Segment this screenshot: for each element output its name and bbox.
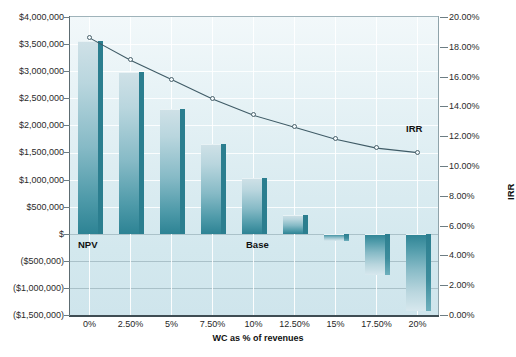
y-tick-label-left: $500,000 <box>0 202 64 212</box>
irr-point-17-50pct <box>374 145 379 150</box>
x-tick-label-10pct: 10% <box>244 319 262 329</box>
y-tick-mark-left <box>64 125 70 126</box>
annotation-base: Base <box>246 239 269 250</box>
y-tick-label-right: 4.00% <box>449 250 509 260</box>
y-tick-mark-right <box>440 136 448 137</box>
irr-point-5pct <box>169 77 174 82</box>
irr-point-10pct <box>251 112 256 117</box>
y-tick-mark-right <box>440 17 448 18</box>
y-tick-label-right: 12.00% <box>449 131 509 141</box>
annotation-npv: NPV <box>78 239 98 250</box>
y-tick-label-left: ($500,000) <box>0 256 64 266</box>
x-tick-label-17-50pct: 17.50% <box>361 319 392 329</box>
axis-title-x: WC as % of revenues <box>0 333 516 343</box>
x-tick-label-12-50pct: 12.50% <box>279 319 310 329</box>
y-tick-mark-left <box>64 98 70 99</box>
plot-border-top <box>69 16 439 17</box>
axis-title-irr: IRR <box>505 184 516 200</box>
annotation-irr: IRR <box>406 123 422 134</box>
y-tick-label-left: $3,500,000 <box>0 39 64 49</box>
y-tick-label-right: 6.00% <box>449 221 509 231</box>
y-tick-mark-right <box>440 106 448 107</box>
line-series-irr <box>69 17 438 315</box>
axis-line-left <box>69 16 70 316</box>
y-tick-label-left: ($1,500,000) <box>0 310 64 320</box>
y-tick-mark-left <box>64 315 70 316</box>
y-tick-label-right: 2.00% <box>449 280 509 290</box>
y-tick-label-left: $1,000,000 <box>0 175 64 185</box>
y-tick-label-right: 14.00% <box>449 101 509 111</box>
y-tick-mark-left <box>64 234 70 235</box>
y-tick-label-right: 8.00% <box>449 191 509 201</box>
x-tick-label-7-50pct: 7.50% <box>200 319 226 329</box>
y-tick-mark-right <box>440 285 448 286</box>
y-tick-mark-right <box>440 315 448 316</box>
y-tick-mark-left <box>64 261 70 262</box>
y-tick-label-right: 18.00% <box>449 42 509 52</box>
y-tick-mark-right <box>440 255 448 256</box>
y-tick-mark-right <box>440 77 448 78</box>
y-tick-mark-right <box>440 226 448 227</box>
y-tick-label-left: $2,500,000 <box>0 93 64 103</box>
y-tick-label-right: 20.00% <box>449 12 509 22</box>
y-tick-label-left: ($1,000,000) <box>0 283 64 293</box>
y-tick-label-left: $4,000,000 <box>0 12 64 22</box>
y-tick-label-right: 0.00% <box>449 310 509 320</box>
x-tick-label-2-50pct: 2.50% <box>118 319 144 329</box>
y-tick-mark-left <box>64 207 70 208</box>
y-tick-mark-right <box>440 166 448 167</box>
y-tick-mark-left <box>64 152 70 153</box>
irr-point-15pct <box>333 136 338 141</box>
plot-area: NPV Base IRR <box>69 17 438 315</box>
y-tick-mark-right <box>440 47 448 48</box>
y-tick-mark-left <box>64 17 70 18</box>
irr-point-0pct <box>87 35 92 40</box>
y-tick-label-left: $3,000,000 <box>0 66 64 76</box>
y-tick-mark-left <box>64 288 70 289</box>
x-tick-label-5pct: 5% <box>165 319 178 329</box>
y-tick-mark-left <box>64 71 70 72</box>
x-tick-label-0pct: 0% <box>83 319 96 329</box>
y-tick-label-left: $ <box>0 229 64 239</box>
y-tick-label-left: $1,500,000 <box>0 147 64 157</box>
axis-line-bottom <box>69 315 439 317</box>
irr-point-2-50pct <box>128 57 133 62</box>
irr-point-20pct <box>415 150 420 155</box>
x-tick-label-20pct: 20% <box>408 319 426 329</box>
y-tick-label-right: 10.00% <box>449 161 509 171</box>
axis-line-right <box>438 16 439 316</box>
y-tick-mark-left <box>64 44 70 45</box>
irr-polyline <box>90 38 418 153</box>
y-tick-label-left: $2,000,000 <box>0 120 64 130</box>
y-tick-label-right: 16.00% <box>449 72 509 82</box>
irr-point-7-50pct <box>210 96 215 101</box>
chart-container: NPV Base IRR $4,000,000$3,500,000$3,000,… <box>0 0 516 357</box>
y-tick-mark-right <box>440 196 448 197</box>
y-tick-mark-left <box>64 180 70 181</box>
x-tick-label-15pct: 15% <box>326 319 344 329</box>
irr-point-12-50pct <box>292 124 297 129</box>
